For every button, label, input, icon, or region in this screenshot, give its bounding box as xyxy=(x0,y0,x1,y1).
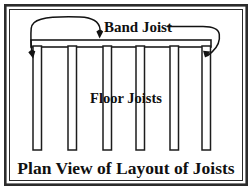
floor-joist-6 xyxy=(202,46,211,150)
band-joist-beam xyxy=(31,40,211,47)
diagram-canvas: Band Joist Floor Joists Plan View of Lay… xyxy=(0,0,252,190)
diagram-caption: Plan View of Layout of Joists xyxy=(17,158,234,178)
floor-joist-2 xyxy=(68,46,77,150)
floor-joist-1 xyxy=(33,46,42,150)
floor-joists-label: Floor Joists xyxy=(90,90,162,106)
band-joist-label: Band Joist xyxy=(104,19,172,35)
floor-joist-5 xyxy=(170,46,179,150)
joist-plan-diagram: Band Joist Floor Joists Plan View of Lay… xyxy=(0,0,252,190)
